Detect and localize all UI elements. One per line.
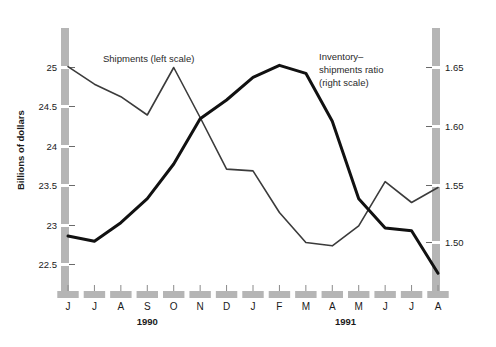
right-tick-label: 1.65 <box>445 62 464 73</box>
x-axis-month-label: J <box>66 301 71 312</box>
left-tick-label: 25 <box>46 62 57 73</box>
chart-svg: 25 24.5 24 23.5 23 22.5 1.65 1.60 1.55 1… <box>0 0 496 347</box>
right-tick-marks <box>426 68 432 243</box>
x-axis-month-label: N <box>197 301 204 312</box>
x-axis-month-label: J <box>251 301 256 312</box>
left-axis-tick-labels: 25 24.5 24 23.5 23 22.5 <box>39 62 58 270</box>
x-axis-segment <box>348 291 369 298</box>
y-axis-title: Billions of dollars <box>15 110 26 190</box>
right-tick-label: 1.55 <box>445 180 464 191</box>
x-axis-segment <box>137 291 158 298</box>
x-axis-month-label: A <box>118 301 125 312</box>
x-axis-segment <box>427 291 448 298</box>
x-axis-month-label: J <box>383 301 388 312</box>
x-axis-segment <box>216 291 237 298</box>
x-axis-segment <box>242 291 263 298</box>
year-label-1990: 1990 <box>137 316 158 327</box>
x-axis-month-label: S <box>144 301 151 312</box>
x-axis-segment <box>189 291 210 298</box>
series-line-inventory-ratio <box>68 65 438 273</box>
right-axis-bar <box>432 28 440 298</box>
chart-container: 25 24.5 24 23.5 23 22.5 1.65 1.60 1.55 1… <box>0 0 496 347</box>
x-axis-segment <box>401 291 422 298</box>
year-label-1991: 1991 <box>335 316 357 327</box>
x-axis-month-label: A <box>435 301 442 312</box>
left-tick-label: 24.5 <box>39 101 58 112</box>
right-axis-tick-labels: 1.65 1.60 1.55 1.50 <box>445 62 464 248</box>
x-axis-segment <box>269 291 290 298</box>
left-tick-label: 24 <box>46 141 57 152</box>
x-axis-month-label: J <box>409 301 414 312</box>
x-axis-month-label: O <box>170 301 178 312</box>
left-tick-label: 22.5 <box>39 259 58 270</box>
x-axis-segment <box>84 291 105 298</box>
x-axis-segment <box>110 291 131 298</box>
x-axis-segment <box>374 291 395 298</box>
x-axis-segment <box>163 291 184 298</box>
left-tick-label: 23.5 <box>39 180 58 191</box>
left-axis-bar <box>61 28 69 298</box>
legend-ratio-line3: (right scale) <box>319 77 369 88</box>
x-axis-month-label: F <box>276 301 282 312</box>
x-axis-month-label: J <box>92 301 97 312</box>
x-axis-segment <box>295 291 316 298</box>
legend-shipments: Shipments (left scale) <box>103 53 194 64</box>
x-axis-segment <box>57 291 78 298</box>
x-axis-month-label: D <box>223 301 230 312</box>
legend-ratio-line1: Inventory– <box>319 51 364 62</box>
x-axis-segment <box>322 291 343 298</box>
x-axis: JJASONDJFMAMJJA <box>57 285 448 312</box>
x-axis-month-label: M <box>355 301 363 312</box>
left-tick-label: 23 <box>46 220 57 231</box>
legend-ratio-line2: shipments ratio <box>319 64 383 75</box>
right-tick-label: 1.50 <box>445 237 464 248</box>
x-axis-month-label: A <box>329 301 336 312</box>
right-tick-label: 1.60 <box>445 121 464 132</box>
x-axis-month-label: M <box>302 301 310 312</box>
